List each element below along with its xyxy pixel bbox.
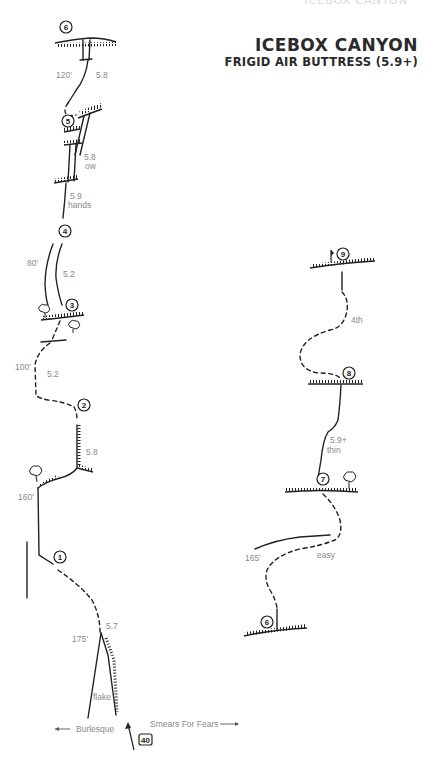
- label-175ft: 175': [72, 634, 88, 644]
- belay-7-icon: 7: [317, 473, 329, 485]
- flag-icon-9: [331, 250, 334, 262]
- svg-text:7: 7: [321, 475, 326, 484]
- svg-text:Smears For Fears: Smears For Fears: [150, 719, 219, 729]
- label-100ft: 100': [15, 362, 31, 372]
- svg-text:6: 6: [64, 23, 69, 32]
- ledge-corner-right: [77, 466, 93, 472]
- svg-text:8: 8: [347, 369, 352, 378]
- label-5-9-plus: 5.9+: [330, 435, 347, 445]
- label-hands: hands: [68, 200, 91, 210]
- ledge-belay-5: [64, 127, 80, 132]
- small-ledge-upper: [78, 105, 102, 118]
- label-160ft: 160': [18, 492, 34, 502]
- ledge-ow-bottom: [54, 177, 78, 183]
- start-marker-40: 40: [139, 734, 152, 745]
- svg-text:5: 5: [66, 117, 71, 126]
- svg-text:2: 2: [82, 401, 87, 410]
- belay-3-icon: 3: [66, 299, 78, 311]
- label-5-2-upper: 5.2: [63, 269, 75, 279]
- ledge-belay-3: [41, 313, 84, 320]
- ledge-ow-top: [64, 141, 82, 145]
- ledge-belay-8: [308, 382, 363, 384]
- belay-9-icon: 9: [337, 248, 349, 260]
- svg-text:3: 3: [70, 301, 75, 310]
- label-80ft: 80': [27, 258, 38, 268]
- svg-text:6: 6: [265, 618, 270, 627]
- left-route-pointer: Burlesque: [55, 724, 115, 734]
- belay-4-icon: 4: [59, 225, 71, 237]
- topo-diagram: 6 120' 5.8 5 5.8 ow 5.9 hands 4 80' 5.2: [0, 0, 428, 764]
- right-route-pointer: Smears For Fears: [150, 719, 239, 729]
- svg-text:9: 9: [341, 250, 346, 259]
- tree-icon-160: [30, 466, 42, 482]
- ledge-belay-7: [285, 490, 358, 492]
- label-5-2-lower: 5.2: [47, 369, 59, 379]
- label-120ft: 120': [56, 70, 72, 80]
- svg-text:40: 40: [141, 736, 150, 745]
- belay-2-icon: 2: [78, 399, 90, 411]
- belay-6-left-icon: 6: [60, 21, 72, 33]
- label-165ft: 165': [245, 553, 261, 563]
- belay-8-icon: 8: [343, 367, 355, 379]
- belay-6-right-icon: 6: [261, 616, 273, 628]
- flake-feature: [88, 633, 117, 718]
- svg-text:Burlesque: Burlesque: [76, 724, 115, 734]
- corner-5-8: [77, 425, 79, 468]
- belay-1-icon: 1: [54, 551, 66, 563]
- tree-icon-3b: [69, 320, 80, 333]
- tree-icon-7: [344, 472, 356, 489]
- start-arrow-icon: [125, 722, 134, 750]
- label-ow: ow: [85, 161, 97, 171]
- label-thin: thin: [327, 445, 341, 455]
- svg-text:1: 1: [58, 553, 63, 562]
- belay-5-icon: 5: [62, 115, 74, 127]
- label-flake: flake: [93, 692, 111, 702]
- label-easy: easy: [317, 550, 336, 560]
- label-5-7: 5.7: [106, 621, 118, 631]
- label-4th: 4th: [351, 315, 363, 325]
- svg-text:4: 4: [63, 227, 68, 236]
- label-5-8-top: 5.8: [96, 70, 108, 80]
- label-5-8-corner: 5.8: [86, 447, 98, 457]
- hatch-diagonal-160: [40, 476, 58, 485]
- ledge-belay-6-left: [55, 38, 116, 45]
- ledge-belay-6-right: [244, 626, 307, 636]
